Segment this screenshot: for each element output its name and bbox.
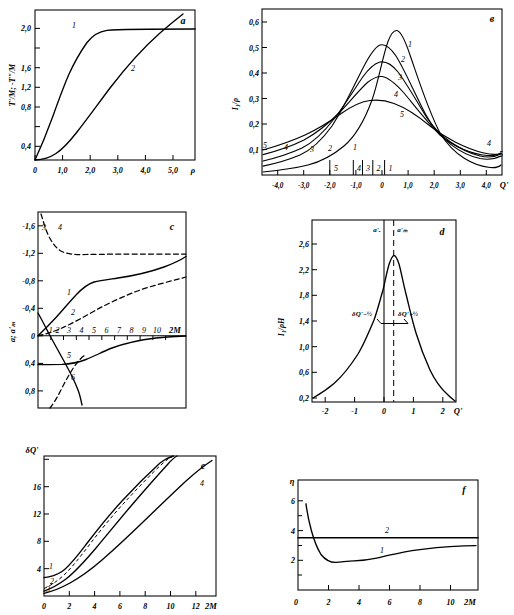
- y-tick-label: 1,6: [21, 64, 31, 73]
- panel-a: 2,0 1,6 1,2 0,8 0,4 0 1,0 2,0 3,0 4,0 5,…: [0, 0, 215, 192]
- multi-panel-figure: 2,0 1,6 1,2 0,8 0,4 0 1,0 2,0 3,0 4,0 5,…: [0, 0, 514, 615]
- y-tick-label: 1,4: [299, 317, 309, 326]
- curve-label-2-left: 2: [328, 144, 332, 153]
- y-tick-label: 0,6: [249, 18, 259, 27]
- y-tick-label: 0,4: [25, 359, 35, 368]
- y-tick-label: 1,0: [299, 343, 309, 352]
- x-tick-label: -2: [322, 407, 329, 416]
- curve-3: [44, 456, 177, 591]
- y-tick-label: 0,3: [249, 95, 259, 104]
- x-axis-ticks: -4,0 -3,0 -2,0 -1,0 0 1,0 2,0 3,0 4,0: [272, 170, 491, 190]
- curve-1: [35, 29, 195, 160]
- y-tick-label: 6: [291, 497, 295, 506]
- curve-label-1: 1: [49, 562, 53, 571]
- curve-label-3: 3: [397, 73, 402, 82]
- x-tick-label: 3,0: [455, 182, 465, 190]
- y-tick-label: 4: [36, 565, 41, 574]
- x-tick-label: 0: [42, 602, 46, 611]
- inner-marker-label: 1: [389, 164, 393, 173]
- x-axis-ticks: 1 2 3 4 5 6 7 8 9 10: [49, 326, 166, 340]
- y-tick-label: 0,4: [21, 142, 31, 151]
- x-tick-label: 10: [167, 602, 175, 611]
- x-tick-label: 2: [440, 407, 445, 416]
- y-axis-label: η: [290, 476, 295, 486]
- x-tick-label: -3,0: [298, 182, 310, 190]
- panel-letter: d: [440, 226, 446, 237]
- y-axis-label: a; a'ₘ: [8, 321, 17, 342]
- curve-label-4: 4: [58, 223, 62, 232]
- curve-label-1: 1: [380, 546, 384, 555]
- curve-label-5-left: 5: [263, 141, 267, 150]
- inner-marker-label: 3: [365, 164, 370, 173]
- x-tick-label: -1: [351, 407, 358, 416]
- x-axis-label: ρ: [190, 165, 196, 175]
- curve-label-4-right: 4: [487, 139, 491, 148]
- curve-2: [35, 14, 183, 160]
- annotation-a-m: a'ₘ: [397, 226, 407, 234]
- y-axis-label: I₁/ρH: [277, 317, 286, 337]
- x-axis-ticks: 0 2 4 6 8 10 12: [42, 591, 200, 611]
- curve-label-6: 6: [71, 373, 75, 382]
- x-tick-label: 6: [118, 602, 122, 611]
- curve-label-3-left: 3: [309, 145, 314, 154]
- inner-markers: 5 4 3 2 1: [330, 160, 393, 175]
- y-tick-label: -0,4: [22, 304, 35, 313]
- curve-2: [38, 277, 186, 336]
- half-max-arrow-right: [404, 319, 408, 324]
- y-axis-label: T'/M; -T"/M: [8, 63, 17, 106]
- y-tick-label: -1,2: [22, 249, 35, 258]
- x-tick-label: 0: [382, 407, 386, 416]
- curve-label-1-left: 1: [353, 143, 357, 152]
- x-tick-label: 0: [294, 598, 298, 607]
- y-tick-label: 4: [290, 527, 295, 536]
- y-axis-ticks: 2,0 1,6 1,2 0,8 0,4: [20, 24, 40, 151]
- y-tick-label: 0,6: [299, 368, 309, 377]
- y-tick-label: 0,2: [249, 120, 259, 129]
- panel-letter: в: [490, 13, 495, 24]
- x-tick-label: 1: [411, 407, 415, 416]
- panel-e-plot: 4 8 12 16 δQ' 0 2 4 6 8 10 12: [0, 432, 250, 615]
- x-axis-label: Q': [500, 180, 509, 190]
- curve-4: [263, 76, 501, 155]
- y-tick-label: 0: [31, 332, 35, 341]
- curve-1: [44, 456, 173, 578]
- x-tick-label: 3,0: [112, 166, 123, 175]
- y-tick-label: 8: [37, 537, 41, 546]
- x-tick-label: 4,0: [481, 182, 491, 190]
- x-tick-label: 2: [326, 598, 331, 607]
- curve-label-1: 1: [408, 40, 412, 49]
- x-axis-ticks: 0 2 4 6 8 10: [294, 585, 455, 607]
- curve-label-2: 2: [131, 64, 135, 73]
- curve-1: [38, 257, 186, 336]
- curve-label-4-left: 4: [284, 143, 288, 152]
- panel-a-plot: 2,0 1,6 1,2 0,8 0,4 0 1,0 2,0 3,0 4,0 5,…: [0, 0, 215, 192]
- plot-frame: [298, 480, 478, 590]
- y-tick-label: 0,8: [21, 103, 31, 112]
- y-axis-label: δQ': [26, 445, 39, 455]
- curve-label-5-right: 5: [499, 150, 503, 159]
- curve-label-5: 5: [67, 351, 71, 360]
- x-axis-label: Q': [454, 406, 463, 416]
- panel-letter: c: [170, 221, 175, 232]
- inner-marker-label: 2: [377, 164, 381, 173]
- x-tick-label: 3: [66, 326, 71, 335]
- curve-label-2: 2: [50, 577, 54, 586]
- panel-letter: f: [462, 484, 467, 495]
- x-tick-label: 8: [130, 326, 134, 335]
- y-axis-ticks: 0,2 1,0 1,4 1,8 2,2 2,6 0,6: [298, 240, 317, 403]
- x-tick-label: 1,0: [404, 182, 413, 190]
- curve-label-2: 2: [385, 526, 389, 535]
- x-tick-label: 6: [105, 326, 109, 335]
- panel-e: 4 8 12 16 δQ' 0 2 4 6 8 10 12: [0, 432, 250, 615]
- x-tick-label: 4: [356, 598, 361, 607]
- y-tick-label: 16: [33, 483, 41, 492]
- x-tick-label: 12: [192, 602, 200, 611]
- y-axis-label: I₁/ρ: [231, 98, 240, 111]
- x-tick-label: 0: [380, 182, 384, 190]
- y-axis-ticks: 0,1 0,2 0,3 0,4 0,5 0,6: [249, 18, 267, 155]
- y-tick-label: 2,2: [298, 266, 309, 275]
- curve-label-2: 2: [71, 308, 75, 317]
- x-tick-label: 5,0: [168, 166, 178, 175]
- curve-label-4: 4: [200, 479, 204, 488]
- y-tick-label: 0,8: [25, 387, 35, 396]
